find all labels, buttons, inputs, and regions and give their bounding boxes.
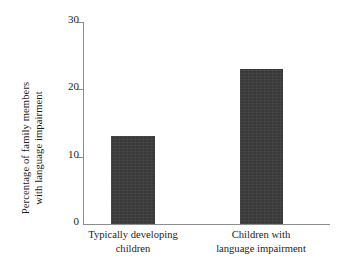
y-tick-label-0: 0 — [74, 216, 80, 227]
y-tick-label-10: 10 — [68, 149, 79, 160]
y-axis-line — [83, 22, 84, 224]
y-tick-label-30: 30 — [68, 14, 79, 25]
bar-typically-developing-children — [111, 136, 155, 224]
y-axis-label-line-1: Percentage of family members — [20, 82, 33, 215]
x-axis-label-children-with-language-impairment: Children with language impairment — [176, 228, 343, 255]
x-axis-labels: Typically developing children Children w… — [83, 228, 330, 262]
x-axis-label-2-line-1: Children with — [176, 228, 343, 242]
y-tick-label-20: 20 — [68, 81, 79, 92]
plot-area: 30 20 10 0 — [83, 22, 330, 224]
y-axis-label-line-2: with language impairment — [33, 91, 46, 205]
x-axis-label-2-line-2: language impairment — [176, 242, 343, 256]
bar-children-with-language-impairment — [240, 69, 283, 224]
bar-chart-figure: Percentage of family members with langua… — [0, 0, 343, 265]
y-axis-label: Percentage of family members with langua… — [11, 43, 55, 253]
x-axis-line — [83, 224, 330, 225]
